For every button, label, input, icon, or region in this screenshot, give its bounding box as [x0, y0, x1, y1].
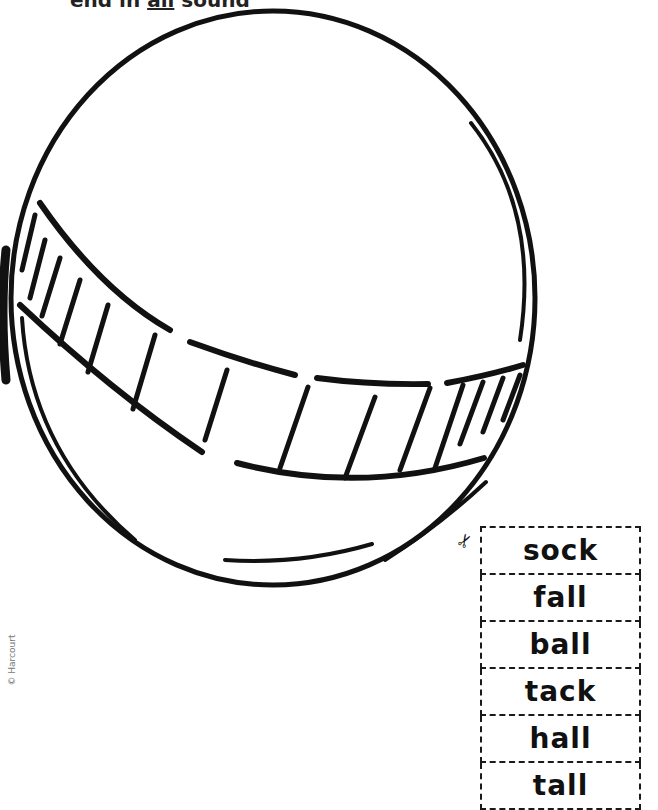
word-card-tack[interactable]: tack [480, 669, 641, 716]
word-card-fall[interactable]: fall [480, 575, 641, 622]
word-label: tall [533, 769, 588, 802]
word-label: ball [529, 628, 591, 661]
word-card-tall[interactable]: tall [480, 763, 641, 810]
word-card-hall[interactable]: hall [480, 716, 641, 763]
word-cutout-strip: sock fall ball tack hall tall [480, 526, 641, 810]
copyright-text: © Harcourt [7, 634, 17, 685]
word-label: hall [529, 722, 591, 755]
word-label: sock [523, 534, 598, 567]
word-card-ball[interactable]: ball [480, 622, 641, 669]
word-label: fall [533, 581, 587, 614]
word-label: tack [525, 675, 597, 708]
word-card-sock[interactable]: sock [480, 526, 641, 575]
